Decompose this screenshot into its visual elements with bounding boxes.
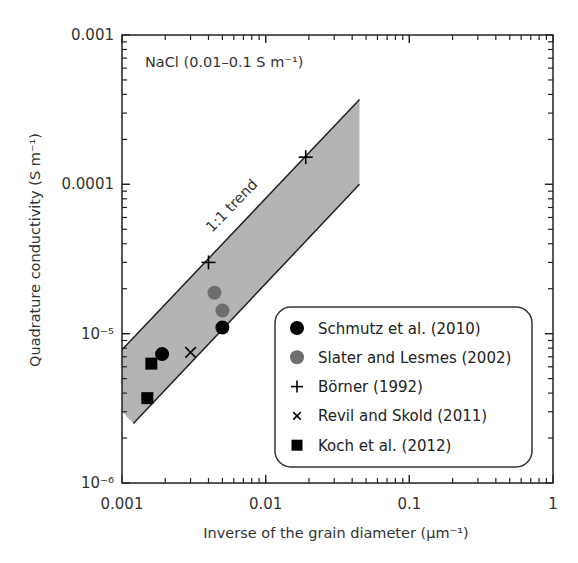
x-tick-label: 0.1 [397, 495, 421, 513]
circle-marker [207, 286, 221, 300]
legend-label: Revil and Skold (2011) [318, 407, 487, 425]
circle-marker [215, 320, 229, 334]
x-tick-label: 0.001 [101, 495, 144, 513]
legend-label: Börner (1992) [318, 378, 423, 396]
y-tick-label: 0.001 [71, 26, 114, 44]
y-tick-label: 0.0001 [62, 175, 115, 193]
x-axis-title: Inverse of the grain diameter (µm⁻¹) [203, 525, 468, 541]
y-axis-title: Quadrature conductivity (S m⁻¹) [27, 133, 43, 367]
circle-marker [215, 303, 229, 317]
legend-item: Slater and Lesmes (2002) [290, 349, 511, 367]
circle-marker [290, 350, 304, 364]
legend: Schmutz et al. (2010)Slater and Lesmes (… [275, 307, 532, 467]
chart-annotation: NaCl (0.01–0.1 S m⁻¹) [145, 54, 303, 70]
y-tick-label: 10⁻⁶ [81, 474, 114, 492]
x-tick-label: 0.01 [249, 495, 282, 513]
square-marker [141, 392, 153, 404]
chart: 0.0010.010.1110⁻⁶10⁻⁵0.00010.001 NaCl (0… [0, 0, 578, 563]
legend-item: Schmutz et al. (2010) [290, 320, 481, 338]
legend-item: Revil and Skold (2011) [293, 407, 487, 425]
legend-label: Schmutz et al. (2010) [318, 320, 481, 338]
legend-label: Koch et al. (2012) [318, 437, 451, 455]
square-marker [292, 440, 303, 451]
y-tick-label: 10⁻⁵ [81, 325, 114, 343]
x-tick-label: 1 [548, 495, 558, 513]
legend-label: Slater and Lesmes (2002) [318, 349, 511, 367]
square-marker [145, 358, 157, 370]
circle-marker [290, 321, 304, 335]
